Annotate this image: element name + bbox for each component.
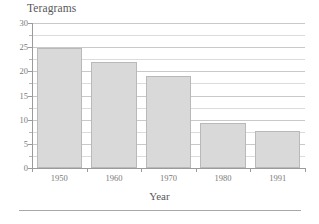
x-tick-mark-4 — [250, 168, 251, 172]
plot-area — [32, 23, 305, 168]
x-axis-title: Year — [0, 190, 319, 202]
x-tick-label-1960: 1960 — [105, 173, 122, 183]
bar-series — [32, 23, 305, 168]
x-tick-label-1991: 1991 — [269, 173, 286, 183]
y-tick-label-30: 30 — [6, 18, 28, 28]
x-axis-line — [32, 168, 305, 169]
x-tick-label-1980: 1980 — [215, 173, 232, 183]
y-tick-label-25: 25 — [6, 42, 28, 52]
x-tick-mark-1 — [87, 168, 88, 172]
y-tick-label-15: 15 — [6, 91, 28, 101]
x-tick-mark-5 — [305, 168, 306, 172]
chart-title: Teragrams — [27, 2, 76, 14]
x-tick-mark-2 — [141, 168, 142, 172]
y-axis-line — [32, 23, 33, 169]
y-tick-label-0: 0 — [6, 163, 28, 173]
x-tick-label-1950: 1950 — [51, 173, 68, 183]
y-tick-label-5: 5 — [6, 139, 28, 149]
bar-1950 — [37, 48, 82, 168]
x-tick-mark-0 — [32, 168, 33, 172]
bar-1991 — [255, 131, 300, 168]
x-tick-mark-3 — [196, 168, 197, 172]
y-tick-label-20: 20 — [6, 66, 28, 76]
bar-chart-figure: Teragrams 051015202530 19501960197019801… — [0, 0, 319, 224]
bar-1980 — [200, 123, 245, 168]
bottom-rule — [19, 210, 301, 211]
bar-1960 — [91, 62, 136, 168]
x-tick-label-1970: 1970 — [160, 173, 177, 183]
y-tick-label-10: 10 — [6, 115, 28, 125]
bar-1970 — [146, 76, 191, 168]
